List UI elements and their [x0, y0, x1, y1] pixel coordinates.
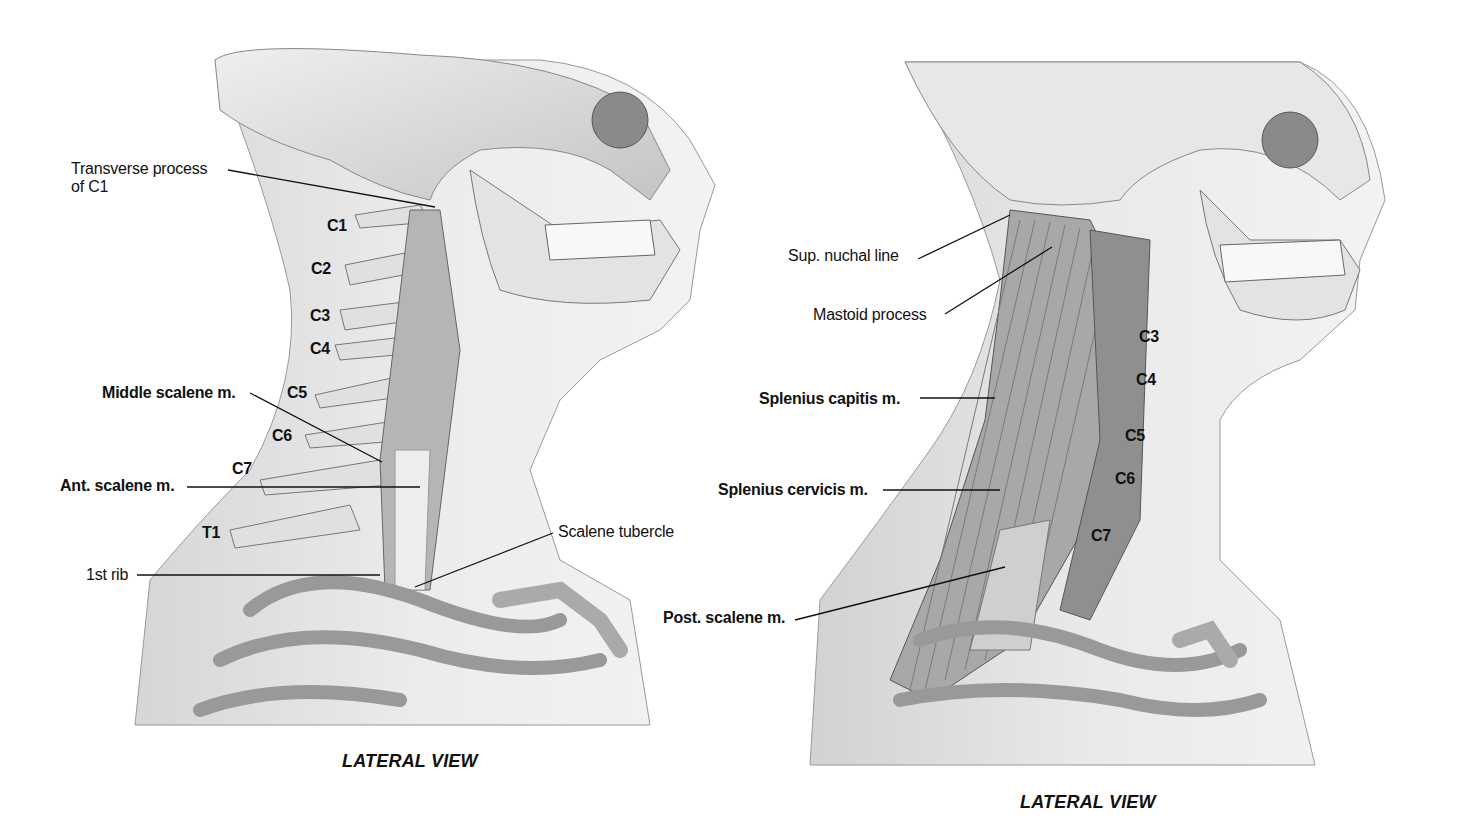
left-caption: LATERAL VIEW [342, 751, 478, 772]
vertebra-label-t1: T1 [202, 524, 220, 542]
vertebra-label-c4: C4 [310, 340, 330, 358]
vertebra-label-c5-right: C5 [1125, 427, 1145, 445]
vertebra-label-c5: C5 [287, 384, 307, 402]
vertebra-label-c4-right: C4 [1136, 371, 1156, 389]
label-sup-nuchal-line: Sup. nuchal line [788, 247, 899, 265]
label-ant-scalene: Ant. scalene m. [60, 477, 174, 495]
label-transverse-process-line2: of C1 [71, 178, 207, 196]
vertebra-label-c3-right: C3 [1139, 328, 1159, 346]
label-scalene-tubercle: Scalene tubercle [558, 523, 674, 541]
vertebra-label-c7: C7 [232, 460, 252, 478]
label-post-scalene: Post. scalene m. [663, 609, 785, 627]
vertebra-label-c3: C3 [310, 307, 330, 325]
vertebra-label-c6-right: C6 [1115, 470, 1135, 488]
vertebra-label-c1: C1 [327, 217, 347, 235]
vertebra-label-c6: C6 [272, 427, 292, 445]
label-first-rib: 1st rib [86, 566, 128, 584]
label-mastoid-process: Mastoid process [813, 306, 927, 324]
label-splenius-cervicis: Splenius cervicis m. [718, 481, 868, 499]
label-splenius-capitis: Splenius capitis m. [759, 390, 900, 408]
leader-lines [0, 0, 1463, 830]
vertebra-label-c2: C2 [311, 260, 331, 278]
label-transverse-process-c1: Transverse process of C1 [71, 160, 207, 196]
right-caption: LATERAL VIEW [1020, 792, 1156, 813]
label-transverse-process-line1: Transverse process [71, 160, 207, 178]
label-middle-scalene: Middle scalene m. [102, 384, 236, 402]
vertebra-label-c7-right: C7 [1091, 527, 1111, 545]
